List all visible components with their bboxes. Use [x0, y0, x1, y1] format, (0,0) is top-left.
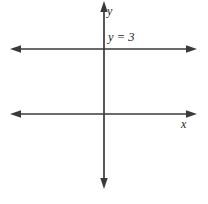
- y-axis-label: y: [107, 5, 112, 17]
- line-arrow-left-icon: [10, 45, 21, 53]
- x-axis-arrow-left-icon: [10, 110, 21, 118]
- x-axis-label: x: [181, 118, 186, 130]
- x-axis-arrow-right-icon: [186, 110, 197, 118]
- coordinate-plane-svg: [0, 0, 208, 204]
- graph-figure: y x y = 3: [0, 0, 208, 204]
- equation-label: y = 3: [108, 31, 134, 44]
- line-arrow-right-icon: [186, 45, 197, 53]
- y-axis: [100, 1, 107, 189]
- y-axis-arrow-down-icon: [100, 178, 107, 189]
